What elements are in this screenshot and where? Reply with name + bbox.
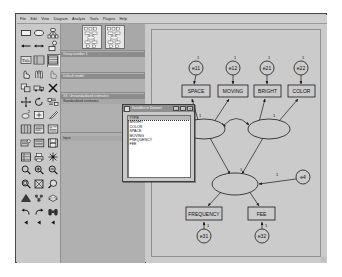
error-label-e12: e12: [229, 65, 238, 71]
path-label-e11: 1: [197, 55, 200, 60]
draw-latent-with-indicators-icon[interactable]: [47, 26, 60, 39]
menu-item-analyze[interactable]: Analyze: [72, 15, 86, 24]
model-thumbnail-2[interactable]: [105, 25, 125, 49]
select-one-object-icon[interactable]: [19, 67, 32, 80]
error-term-e32[interactable]: e32: [255, 229, 269, 243]
latent-variable-f2[interactable]: [248, 119, 290, 139]
magnifier-icon[interactable]: [19, 164, 32, 177]
error-term-e31[interactable]: e31: [197, 229, 211, 243]
amos-graphics-window: File Edit View Diagram Analyze Tools Plu…: [15, 13, 327, 263]
variables-listbox[interactable]: TYPE BRIGHT COLOR SPACE MOVING FREQUENCY…: [127, 115, 191, 178]
error-label-e11: e11: [192, 65, 200, 71]
list-variables-in-model-icon[interactable]: [33, 54, 46, 67]
error-term-e22[interactable]: e22: [294, 61, 308, 75]
list-variables-in-dataset-icon[interactable]: [47, 54, 60, 67]
binoculars-icon[interactable]: [47, 205, 60, 218]
observed-label-frequency: FREQUENCY: [188, 211, 220, 217]
dialog-body: TYPE BRIGHT COLOR SPACE MOVING FREQUENCY…: [125, 114, 194, 181]
save-diagram-icon[interactable]: [47, 136, 60, 149]
draw-observed-variable-icon[interactable]: [19, 26, 32, 39]
select-data-file-icon[interactable]: [19, 122, 32, 135]
menu-item-view[interactable]: View: [41, 15, 49, 24]
print-preview-icon[interactable]: [47, 191, 60, 204]
object-properties-icon[interactable]: [47, 122, 60, 135]
latent-variable-f3[interactable]: [212, 173, 258, 195]
multiple-group-analysis-icon[interactable]: [47, 150, 60, 163]
error-term-e12[interactable]: e12: [226, 61, 240, 75]
observed-variable-color[interactable]: COLOR: [288, 85, 315, 97]
view-output-icon[interactable]: [33, 136, 46, 149]
observed-variable-fee[interactable]: FEE: [248, 207, 275, 220]
touch-up-variable-icon[interactable]: [47, 109, 60, 122]
deselect-all-objects-icon[interactable]: [47, 67, 60, 80]
move-objects-icon[interactable]: [33, 81, 46, 94]
scroll-diagram-icon[interactable]: [33, 109, 46, 122]
select-all-objects-icon[interactable]: [33, 67, 46, 80]
duplicate-objects-icon[interactable]: [19, 81, 32, 94]
menu-bar: File Edit View Diagram Analyze Tools Plu…: [17, 15, 327, 24]
bayesian-estimation-icon[interactable]: [19, 191, 32, 204]
erase-objects-icon[interactable]: [47, 81, 60, 94]
zoom-out-icon[interactable]: [47, 164, 60, 177]
printer-icon[interactable]: [33, 150, 46, 163]
models-list[interactable]: [61, 79, 145, 92]
dialog-icon: [124, 106, 130, 112]
scroll-left-icon[interactable]: [19, 220, 32, 226]
variables-in-dataset-dialog[interactable]: Variables in Dataset – □ ✕ TYPE BRIGHT C…: [122, 104, 195, 182]
path-label-e4: 1: [276, 172, 279, 177]
list-item-fee[interactable]: FEE: [128, 142, 190, 146]
group-list[interactable]: [61, 57, 145, 72]
path-label-e22: 1: [302, 55, 305, 60]
observed-variable-bright[interactable]: BRIGHT: [254, 85, 281, 97]
menu-item-plugins[interactable]: Plugins: [103, 15, 116, 24]
analysis-properties-icon[interactable]: [33, 122, 46, 135]
observed-variable-moving[interactable]: MOVING: [218, 85, 248, 97]
menu-item-help[interactable]: Help: [119, 15, 127, 24]
path-label-f1: 1: [199, 113, 202, 118]
screenshot-root: File Edit View Diagram Analyze Tools Plu…: [0, 0, 342, 277]
loupe-icon[interactable]: [47, 178, 60, 191]
canvas-corner: [321, 257, 326, 262]
svg-text:Title: Title: [22, 58, 30, 63]
menu-item-edit[interactable]: Edit: [30, 15, 37, 24]
menu-item-tools[interactable]: Tools: [90, 15, 99, 24]
menu-item-diagram[interactable]: Diagram: [53, 15, 67, 24]
observed-label-space: SPACE: [188, 88, 205, 94]
redo-icon[interactable]: [33, 205, 46, 218]
dialog-title-bar[interactable]: Variables in Dataset – □ ✕: [123, 105, 194, 112]
observed-variable-frequency[interactable]: FREQUENCY: [186, 207, 222, 220]
draw-covariance-icon[interactable]: [33, 40, 46, 53]
rotate-indicators-icon[interactable]: [33, 95, 46, 108]
path-label-e21: 1: [268, 55, 271, 60]
fit-to-page-icon[interactable]: [33, 178, 46, 191]
multi-group-icon[interactable]: [33, 191, 46, 204]
zoom-in-icon[interactable]: [33, 164, 46, 177]
tool-palette: Title: [17, 24, 61, 263]
error-term-e11[interactable]: e11: [189, 61, 203, 75]
observed-label-bright: BRIGHT: [258, 88, 277, 94]
figure-caption-icon[interactable]: Title: [19, 54, 32, 67]
maximize-button[interactable]: □: [180, 106, 186, 111]
error-term-e4[interactable]: e4: [296, 170, 310, 184]
observed-label-color: COLOR: [293, 88, 311, 94]
observed-label-moving: MOVING: [223, 88, 243, 94]
scroll-right-icon[interactable]: [47, 220, 60, 226]
zoom-page-icon[interactable]: [19, 178, 32, 191]
error-term-e21[interactable]: e21: [260, 61, 274, 75]
draw-path-icon[interactable]: [19, 40, 32, 53]
change-shape-icon[interactable]: [19, 95, 32, 108]
close-button[interactable]: ✕: [187, 106, 193, 111]
dialog-window-buttons: – □ ✕: [173, 106, 193, 111]
minimize-button[interactable]: –: [173, 106, 179, 111]
model-thumbnail-1[interactable]: [82, 25, 102, 49]
scroll-mid-icon[interactable]: [33, 220, 46, 226]
copy-to-clipboard-icon[interactable]: [19, 150, 32, 163]
observed-variable-space[interactable]: SPACE: [182, 85, 210, 97]
add-unique-variable-icon[interactable]: [47, 40, 60, 53]
menu-item-file[interactable]: File: [20, 15, 26, 24]
undo-icon[interactable]: [19, 205, 32, 218]
move-parameter-values-icon[interactable]: 2: [19, 109, 32, 122]
preserve-symmetries-icon[interactable]: [19, 136, 32, 149]
reflect-indicators-icon[interactable]: [47, 95, 60, 108]
draw-unobserved-variable-icon[interactable]: [33, 26, 46, 39]
